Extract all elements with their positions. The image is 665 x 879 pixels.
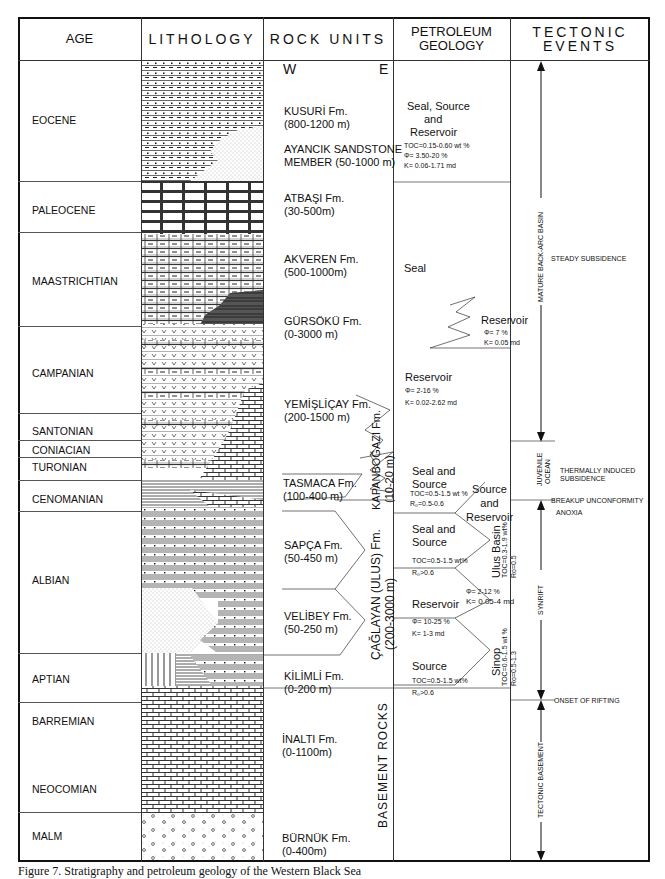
formation-kusuri: KUSURİ Fm.(800-1200 m) [284,105,350,131]
tectonic-synrift: SYNRIFT [536,585,546,615]
tectonic-thermal-subsidence: THERMALLY INDUCED SUBSIDENCE [560,467,635,483]
basement-rocks: BASEMENT ROCKS [377,702,390,828]
header-age: AGE [18,17,141,61]
header-petroleum-geology: PETROLEUM GEOLOGY [393,17,510,61]
age-maastrichtian: MAASTRICHTIAN [32,275,118,287]
petro-tasmaca-values: TOC=0.5-1.5 wt % R₀=0.5-0.6 [410,489,468,509]
tectonic-mature-back-arc: MATURE BACK-ARC BASIN [536,212,546,302]
col-divider [510,17,511,862]
formation-sapca: SAPÇA Fm.(50-450 m) [284,539,343,565]
formation-velibey: VELİBEY Fm.(50-250 m) [284,610,352,636]
formation-kilimli: KİLİMLİ Fm.(0-200 m) [284,670,344,696]
formation-ayancik: AYANCIK SANDSTONEMEMBER (50-1000 m) [284,143,402,169]
formation-tasmaca: TASMACA Fm.(100-400 m) [283,477,357,503]
formation-kapanbogazi: KAPANBOĞAZI Fm. [370,410,383,510]
petro-velibey: Reservoir [412,598,459,611]
petro-caglayan-side-values: Φ= 2-12 % K= 0.05-4 md [466,587,514,607]
tectonic-juvenile: JUVENILE [536,453,544,486]
age-cenomanian: CENOMANIAN [32,493,103,505]
east-label: E [379,63,388,76]
petro-yemislicay: Reservoir [405,371,452,384]
col-divider [263,17,264,862]
petro-sinop-ro: Ro=0.5-1.3 [509,651,519,686]
row-divider [18,326,141,327]
row-divider [18,181,141,182]
petro-gursoku: Reservoir [481,314,528,327]
header-rock-units: ROCK UNITS [263,17,393,61]
age-santonian: SANTONIAN [32,425,93,437]
age-aptian: APTIAN [32,673,70,685]
row-divider [18,511,141,512]
row-divider [18,440,141,441]
petro-yemislicay-values: Φ= 2-16 % K= 0.02-2.62 md [405,386,457,408]
row-divider [18,812,141,813]
formation-burnuk: BÜRNÜK Fm.(0-400m) [282,832,350,858]
row-divider [18,457,141,458]
age-coniacian: CONIACIAN [32,444,90,456]
formation-inalti: İNALTI Fm.(0-1100m) [282,733,337,759]
petro-kilimli-values: TOC=0.5-1.5 wt% R₀>0.6 [412,676,468,698]
header-tectonic-events: TECTONIC EVENTS [510,17,650,61]
petro-akveren-seal: Seal [404,262,426,275]
petro-tasmaca: Seal and Source [412,465,455,491]
formation-caglayan-thickness: (200-3000 m) [384,578,397,650]
header-lithology: LITHOLOGY [141,17,263,61]
petro-caglayan-side: Source and Reservoir [466,482,513,524]
age-paleocene: PALEOCENE [32,204,95,216]
west-label: W [283,63,296,76]
age-albian: ALBIAN [32,574,69,586]
row-divider [18,413,141,414]
tectonic-ocean: OCEAN [544,459,552,484]
row-divider [18,232,141,233]
tectonic-basement: TECTONIC BASEMENT [536,742,546,818]
age-eocene: EOCENE [32,114,76,126]
col-divider [141,17,142,862]
petro-sapca: Seal and Source [412,523,455,549]
age-neocomian: NEOCOMIAN [32,783,97,795]
petro-gursoku-values: Φ= 7 % K= 0.05 md [484,328,520,348]
row-divider [18,480,141,481]
petro-ulus-ro: Ro=0.5 [509,555,519,578]
petro-velibey-values: Φ= 10-25 % K= 1-3 md [412,617,450,639]
age-barremian: BARREMIAN [32,715,94,727]
petro-eocene-values: TOC=0.15-0.60 wt % Φ= 3.50-20 % K= 0.06-… [404,141,469,171]
formation-atbasi: ATBAŞI Fm.(30-500m) [284,192,344,218]
figure-caption: Figure 7. Stratigraphy and petroleum geo… [18,864,361,879]
tectonic-breakup: BREAKUP UNCONFORMITY [551,496,643,506]
formation-gursoku: GÜRSÖKÜ Fm.(0-3000 m) [284,315,362,341]
age-campanian: CAMPANIAN [32,367,94,379]
tectonic-anoxia: ANOXIA [556,508,582,518]
petro-kilimli: Source [412,660,447,673]
petro-eocene: Seal, Source and Reservoir [407,100,470,139]
age-turonian: TURONIAN [32,461,87,473]
tectonic-onset-of-rifting: ONSET OF RIFTING [554,696,620,706]
row-divider [18,653,141,654]
age-malm: MALM [32,830,62,842]
row-divider [18,702,141,703]
petro-sapca-values: TOC=0.5-1.5 wt% R₀>0.6 [412,556,468,578]
tectonic-steady-subsidence: STEADY SUBSIDENCE [551,254,626,264]
formation-yemislicay: YEMİŞLİÇAY Fm.(200-1500 m) [284,398,371,424]
formation-caglayan: ÇAĞLAYAN (ULUS) Fm. [370,529,383,660]
formation-akveren: AKVEREN Fm.(500-1000m) [284,253,359,279]
formation-kapanbogazi-thickness: (10-20 m) [383,455,396,503]
